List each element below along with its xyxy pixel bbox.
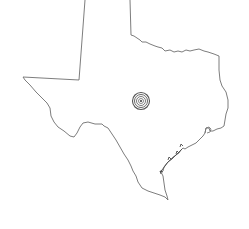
target-marker-icon xyxy=(133,93,150,110)
texas-outline xyxy=(23,0,228,200)
texas-map xyxy=(0,0,249,229)
map-canvas xyxy=(0,0,249,229)
